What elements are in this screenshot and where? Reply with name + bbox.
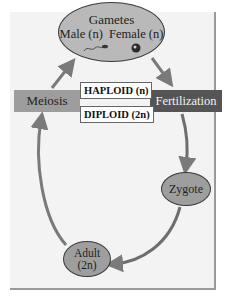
egg-icon <box>131 43 141 53</box>
adult-node: Adult (2n) <box>63 241 111 277</box>
fertilization-node: Fertilization <box>150 90 222 112</box>
haploid-label: HAPLOID (n) <box>80 82 152 99</box>
meiosis-node: Meiosis <box>14 90 80 112</box>
meiosis-label: Meiosis <box>26 93 67 109</box>
gametes-node: Gametes Male (n) Female (n) <box>58 2 165 62</box>
fertilization-label: Fertilization <box>155 94 216 109</box>
sperm-icon <box>83 43 109 53</box>
zygote-node: Zygote <box>161 172 211 206</box>
arrow-gametes-to-fertilization <box>152 58 168 80</box>
arrow-zygote-to-adult <box>114 207 180 264</box>
arrow-adult-to-meiosis <box>39 120 66 245</box>
gametes-title: Gametes <box>89 12 134 27</box>
zygote-label: Zygote <box>169 182 203 197</box>
adult-label: Adult <box>74 247 100 259</box>
male-label: Male (n) <box>60 27 103 42</box>
arrow-fertilization-to-zygote <box>182 114 187 166</box>
diploid-label: DIPLOID (2n) <box>80 106 154 123</box>
adult-ploidy: (2n) <box>77 259 96 271</box>
arrow-meiosis-to-gametes <box>52 65 70 88</box>
female-label: Female (n) <box>109 27 164 42</box>
